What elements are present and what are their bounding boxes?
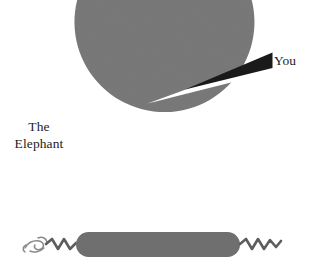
banner-svg bbox=[0, 0, 314, 272]
ornament-flourish-icon bbox=[23, 237, 47, 252]
buddha-bullets-figure: The Elephant You BUDDHA BULLETS bbox=[0, 0, 314, 272]
banner: BUDDHA BULLETS bbox=[0, 205, 314, 272]
banner-pill bbox=[76, 232, 240, 257]
squiggle-right-icon bbox=[240, 239, 281, 249]
squiggle-left-icon bbox=[46, 239, 76, 249]
